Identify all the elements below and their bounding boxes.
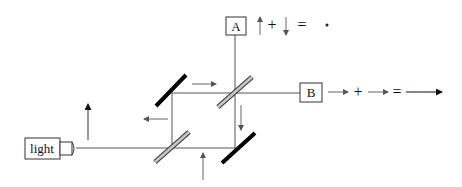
plus-a: + — [267, 16, 276, 33]
equals-b: = — [392, 83, 401, 100]
equation-a: + = — [260, 16, 329, 35]
light-lens — [60, 142, 72, 155]
upper-left-mirror — [156, 75, 186, 106]
detector-a: A — [226, 17, 246, 35]
detector-b: B — [300, 83, 322, 102]
light-source: light — [25, 138, 74, 159]
dot-result-icon — [326, 24, 329, 27]
interferometer-diagram: light A + = B + = — [0, 0, 462, 187]
plus-b: + — [353, 83, 362, 100]
equals-a: = — [297, 16, 306, 33]
equation-b: + = — [328, 83, 442, 100]
light-label: light — [30, 141, 54, 156]
detector-a-label: A — [231, 19, 241, 34]
detector-b-label: B — [307, 85, 316, 100]
